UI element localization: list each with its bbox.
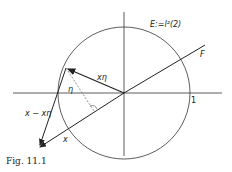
difference-label: x − xη (24, 109, 51, 118)
space-label: E:=l²(2) (150, 20, 181, 29)
subspace-label: F (200, 50, 205, 59)
eta-label: η (68, 85, 73, 94)
difference-vector-arrow (40, 68, 66, 145)
subspace-f-line (124, 45, 205, 93)
figure-caption: Fig. 11.1 (6, 156, 47, 166)
vector-xeta-arrow (68, 69, 124, 93)
xeta-label: xη (96, 73, 107, 82)
vector-x-arrow (40, 93, 124, 147)
diagram-canvas: E:=l²(2) F 1 xη η x − xη x Fig. 11.1 (0, 0, 232, 172)
right-angle-mark (90, 105, 97, 109)
unit-label: 1 (191, 96, 196, 105)
x-label: x (62, 135, 68, 144)
